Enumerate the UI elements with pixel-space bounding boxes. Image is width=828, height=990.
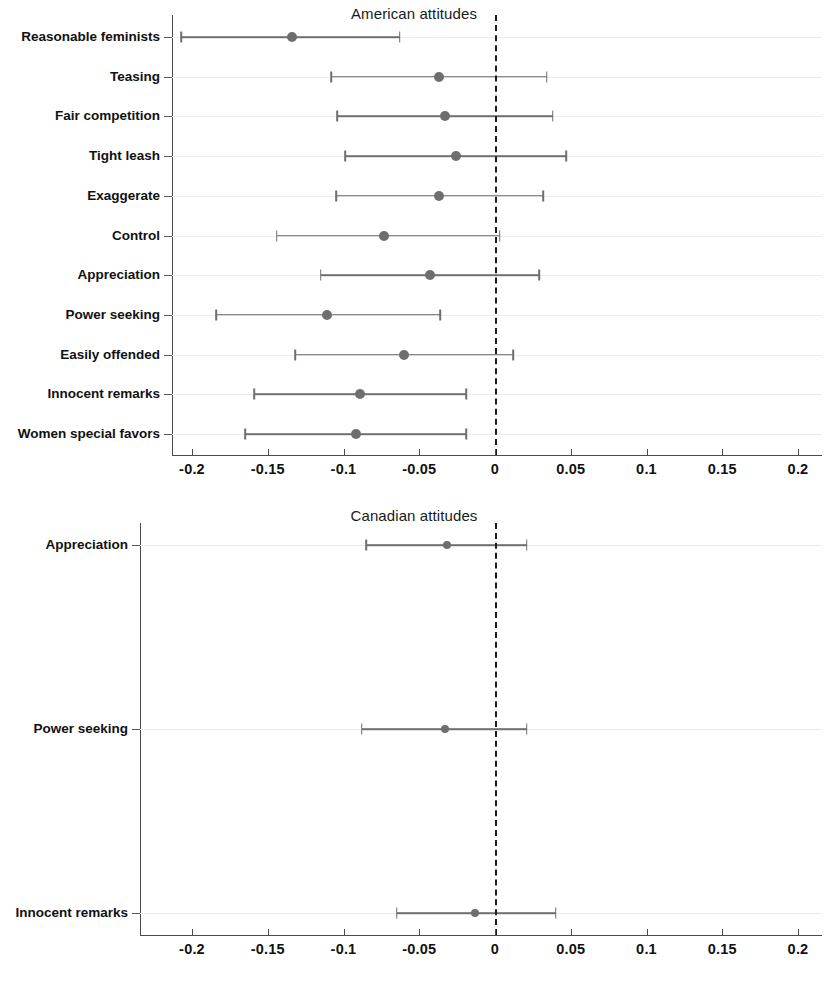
ci-upper-cap <box>526 540 528 551</box>
ci-lower-cap <box>337 111 339 122</box>
x-axis-tick <box>192 929 193 935</box>
estimate-point <box>425 270 435 280</box>
x-axis-tick <box>798 929 799 935</box>
category-tick <box>164 394 172 395</box>
category-label: Control <box>112 229 160 243</box>
ci-lower-cap <box>344 151 346 162</box>
category-tick <box>132 729 140 730</box>
ci-upper-cap <box>399 32 401 43</box>
x-axis-tick <box>571 929 572 935</box>
category-label: Fair competition <box>55 110 160 124</box>
panel-canadian-attitudes: Canadian attitudes AppreciationPower see… <box>0 495 828 990</box>
x-axis-tick-label: 0.2 <box>788 461 809 477</box>
estimate-point <box>322 310 332 320</box>
ci-upper-cap <box>526 724 528 735</box>
ci-upper-cap <box>440 309 442 320</box>
category-tick <box>164 355 172 356</box>
ci-upper-cap <box>465 389 467 400</box>
category-label: Innocent remarks <box>47 388 160 402</box>
estimate-point <box>399 350 409 360</box>
ci-lower-cap <box>244 429 246 440</box>
category-tick <box>132 913 140 914</box>
x-axis-tick-label: 0.2 <box>788 941 809 957</box>
x-axis-tick-label: 0.05 <box>556 461 585 477</box>
x-axis-tick <box>722 449 723 455</box>
ci-upper-cap <box>546 71 548 82</box>
ci-lower-cap <box>320 270 322 281</box>
category-label: Power seeking <box>33 722 128 736</box>
category-label: Innocent remarks <box>15 906 128 920</box>
estimate-point <box>451 151 461 161</box>
category-tick <box>132 545 140 546</box>
x-axis-tick <box>268 929 269 935</box>
ci-upper-cap <box>555 908 557 919</box>
category-label: Easily offended <box>60 348 160 362</box>
x-axis-tick-label: -0.05 <box>402 461 436 477</box>
x-axis-line <box>140 935 822 936</box>
category-label: Teasing <box>110 70 160 84</box>
category-tick <box>164 236 172 237</box>
estimate-point <box>441 725 449 733</box>
x-axis-line <box>172 455 822 456</box>
x-axis-tick <box>268 449 269 455</box>
category-label: Exaggerate <box>87 189 160 203</box>
x-axis-tick <box>647 449 648 455</box>
category-tick <box>164 37 172 38</box>
ci-lower-cap <box>396 908 398 919</box>
x-axis-tick <box>192 449 193 455</box>
x-axis-tick-label: 0.05 <box>556 941 585 957</box>
x-axis-tick-label: -0.05 <box>402 941 436 957</box>
x-axis-tick <box>344 929 345 935</box>
category-label: Reasonable feminists <box>21 30 160 44</box>
x-axis-tick <box>419 449 420 455</box>
ci-upper-cap <box>499 230 501 241</box>
x-axis-tick <box>344 449 345 455</box>
x-axis-tick-label: 0.1 <box>636 941 657 957</box>
x-axis-tick <box>571 449 572 455</box>
x-axis-tick <box>722 929 723 935</box>
x-axis-tick <box>419 929 420 935</box>
category-label: Tight leash <box>89 149 160 163</box>
x-axis-tick <box>798 449 799 455</box>
zero-reference-line <box>495 15 497 455</box>
category-label: Women special favors <box>18 427 160 441</box>
category-tick <box>164 434 172 435</box>
panel-american-attitudes: American attitudes Reasonable feministsT… <box>0 0 828 480</box>
ci-upper-cap <box>538 270 540 281</box>
x-axis-tick-label: -0.2 <box>179 941 205 957</box>
zero-reference-line <box>495 523 497 935</box>
category-tick <box>164 156 172 157</box>
x-axis-tick-label: 0.15 <box>708 941 737 957</box>
x-axis-tick-label: 0 <box>491 941 499 957</box>
x-axis-tick-label: 0 <box>491 461 499 477</box>
forest-plot-figure: American attitudes Reasonable feministsT… <box>0 0 828 990</box>
estimate-point <box>471 909 479 917</box>
category-tick <box>164 275 172 276</box>
x-axis-tick-label: 0.1 <box>636 461 657 477</box>
estimate-point <box>351 429 361 439</box>
category-label: Power seeking <box>65 308 160 322</box>
estimate-point <box>355 389 365 399</box>
x-axis-tick <box>647 929 648 935</box>
ci-lower-cap <box>335 190 337 201</box>
x-axis-tick-label: 0.15 <box>708 461 737 477</box>
category-label: Appreciation <box>77 268 160 282</box>
ci-lower-cap <box>253 389 255 400</box>
x-axis-tick <box>495 449 496 455</box>
ci-lower-cap <box>365 540 367 551</box>
estimate-point <box>440 111 450 121</box>
estimate-point <box>379 231 389 241</box>
ci-upper-cap <box>565 151 567 162</box>
x-axis-tick-label: -0.15 <box>251 941 285 957</box>
x-axis-tick <box>495 929 496 935</box>
x-axis-tick-label: -0.1 <box>331 941 357 957</box>
category-tick <box>164 315 172 316</box>
category-tick <box>164 116 172 117</box>
ci-lower-cap <box>215 309 217 320</box>
ci-lower-cap <box>331 71 333 82</box>
ci-lower-cap <box>294 349 296 360</box>
ci-lower-cap <box>361 724 363 735</box>
estimate-point <box>443 541 451 549</box>
ci-upper-cap <box>465 429 467 440</box>
ci-lower-cap <box>181 32 183 43</box>
